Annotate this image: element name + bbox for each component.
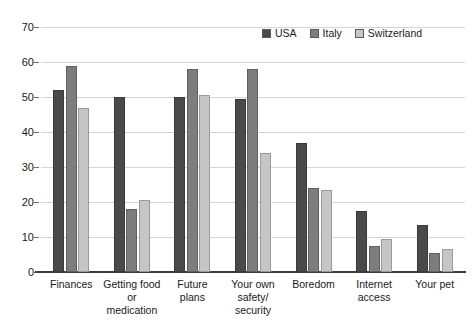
y-tick-label: 10 xyxy=(4,232,34,243)
bar xyxy=(114,97,125,272)
bars-layer xyxy=(41,27,465,272)
bar-group xyxy=(223,27,284,272)
bar-group xyxy=(162,27,223,272)
y-tick-label: 0 xyxy=(4,267,34,278)
y-tick-label: 30 xyxy=(4,162,34,173)
legend-entry-usa: USA xyxy=(262,28,297,39)
bar xyxy=(260,153,271,272)
legend-entry-italy: Italy xyxy=(310,28,342,39)
legend-label-italy: Italy xyxy=(323,28,342,39)
y-tick-label: 50 xyxy=(4,92,34,103)
bar-group xyxy=(41,27,102,272)
legend-swatch-italy xyxy=(310,29,319,38)
y-tick-mark xyxy=(34,237,39,238)
bar-group xyxy=(283,27,344,272)
bar xyxy=(369,246,380,272)
legend-swatch-usa xyxy=(262,29,271,38)
chart-legend: USA Italy Switzerland xyxy=(262,28,422,39)
x-axis-label: Your pet xyxy=(404,278,465,291)
bar-group xyxy=(404,27,465,272)
x-axis-label: Getting food or medication xyxy=(102,278,163,317)
legend-label-switzerland: Switzerland xyxy=(368,28,422,39)
legend-entry-switzerland: Switzerland xyxy=(355,28,422,39)
y-tick-mark xyxy=(34,97,39,98)
x-axis-label: Your own safety/ security xyxy=(223,278,284,317)
bar xyxy=(356,211,367,272)
legend-swatch-switzerland xyxy=(355,29,364,38)
bar xyxy=(381,239,392,272)
y-tick-label: 70 xyxy=(4,22,34,33)
x-axis-label: Internet access xyxy=(344,278,405,304)
y-tick-label: 60 xyxy=(4,57,34,68)
x-axis-label: Finances xyxy=(41,278,102,291)
bar xyxy=(442,249,453,272)
bar xyxy=(78,108,89,273)
y-tick-label: 40 xyxy=(4,127,34,138)
y-axis: 010203040506070 xyxy=(0,27,34,272)
y-tick-label: 20 xyxy=(4,197,34,208)
bar xyxy=(139,200,150,272)
bar xyxy=(174,97,185,272)
bar xyxy=(429,253,440,272)
y-tick-mark xyxy=(34,167,39,168)
y-tick-mark xyxy=(34,27,39,28)
bar xyxy=(187,69,198,272)
bar-group xyxy=(102,27,163,272)
bar-chart: USA Italy Switzerland 010203040506070 Fi… xyxy=(0,0,472,332)
bar xyxy=(53,90,64,272)
bar xyxy=(235,99,246,272)
legend-label-usa: USA xyxy=(275,28,297,39)
bar-group xyxy=(344,27,405,272)
x-axis-labels: FinancesGetting food or medicationFuture… xyxy=(41,278,465,332)
bar xyxy=(321,190,332,272)
bar xyxy=(199,95,210,272)
y-tick-mark xyxy=(34,132,39,133)
x-axis-label: Future plans xyxy=(162,278,223,304)
bar xyxy=(417,225,428,272)
y-tick-mark xyxy=(34,62,39,63)
bar xyxy=(66,66,77,273)
bar xyxy=(296,143,307,273)
bar xyxy=(126,209,137,272)
bar xyxy=(308,188,319,272)
y-tick-mark xyxy=(34,202,39,203)
x-axis-label: Boredom xyxy=(283,278,344,291)
bar xyxy=(247,69,258,272)
